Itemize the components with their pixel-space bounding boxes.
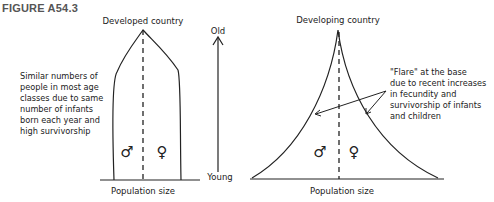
female-symbol-icon: ♀ [157, 143, 168, 161]
developed-title: Developed country [103, 16, 184, 26]
age-axis-young-label: Young [206, 172, 232, 182]
developed-x-label: Population size [111, 186, 175, 196]
age-axis: Old Young [206, 26, 232, 182]
male-symbol-icon: ♂ [120, 143, 133, 161]
developing-x-label: Population size [310, 186, 374, 196]
female-symbol-icon: ♀ [349, 143, 360, 161]
age-axis-old-label: Old [211, 26, 225, 36]
developing-title: Developing country [296, 15, 379, 25]
developing-annotation: "Flare" at the base due to recent increa… [390, 67, 486, 122]
male-symbol-icon: ♂ [313, 143, 326, 161]
developed-annotation: Similar numbers of people in most age cl… [20, 71, 103, 137]
developed-country-pyramid: Developed country ♂ ♀ Population size [100, 16, 200, 196]
